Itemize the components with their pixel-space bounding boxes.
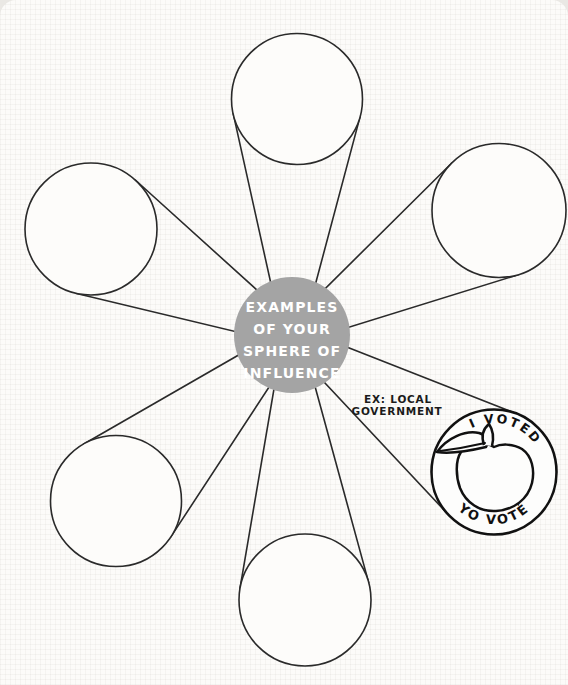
hub-title-line4: INFLUENCE — [243, 365, 340, 381]
hub-title-line2: OF YOUR — [253, 321, 331, 337]
hub-title-line3: SPHERE OF — [243, 343, 341, 359]
node-circle-upper-right — [432, 144, 566, 278]
hub-title-line1: EXAMPLES — [246, 299, 339, 315]
node-circle-top — [232, 34, 363, 165]
voting-sticker: I VOTED YO VOTÉ — [432, 410, 557, 535]
worksheet-page: I VOTED YO VOTÉ EX: LOCAL GOVERNMENT EXA… — [0, 0, 568, 685]
example-caption-line1: EX: LOCAL — [364, 393, 432, 405]
sphere-of-influence-diagram: I VOTED YO VOTÉ EX: LOCAL GOVERNMENT EXA… — [0, 0, 568, 685]
node-circle-lower-left — [51, 436, 182, 567]
example-caption-line2: GOVERNMENT — [351, 405, 442, 417]
node-circle-upper-left — [25, 163, 157, 295]
example-caption: EX: LOCAL GOVERNMENT — [351, 393, 442, 417]
node-circle-bottom — [239, 534, 371, 666]
